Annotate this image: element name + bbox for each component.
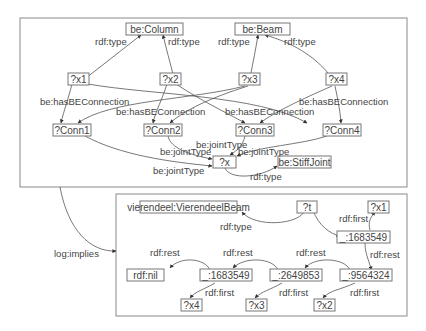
rdf-rule-diagram: be:Column be:Beam ?x1 ?x2 ?x3 ?x4 ?Conn1… [0,0,426,331]
edge-log-implies [60,187,116,251]
node-blank-9564324: _:9564324 [340,269,392,281]
node-conclusion-x2: ?x2 [314,299,335,311]
node-label: _:1683549 [201,270,250,281]
node-label: _:9564324 [341,270,390,281]
edge-label-x4-type: rdf:type [284,36,316,47]
edge-label-b1-rest: rdf:rest [370,249,400,260]
node-label: ?x3 [248,300,265,311]
node-conclusion-x3: ?x3 [246,299,267,311]
edge-label-b1-first: rdf:first [339,213,368,224]
node-label: ?Conn4 [324,125,359,136]
edge-label-joint-type-2: be:jointType [160,146,211,157]
node-label: ?x1 [370,202,387,213]
node-be-column: be:Column [126,23,183,35]
edge-label-has-conn-2: be:hasBEConnection [116,106,205,117]
edge-label-has-conn-3: be:hasBEConnection [225,106,314,117]
node-label: _:2649853 [271,270,320,281]
node-label: ?x4 [328,74,345,85]
node-label: rdf:nil [133,270,157,281]
node-conclusion-x1: ?x1 [368,201,389,213]
node-conn4: ?Conn4 [323,124,361,136]
node-label: ?x1 [70,74,87,85]
node-x4: ?x4 [326,73,347,85]
node-label: ?x4 [183,300,200,311]
edge-label-b3-first: rdf:first [279,287,308,298]
edge-label-log-implies: log:implies [54,248,99,259]
node-label: ?x2 [162,74,179,85]
node-vierendeel-beam: vierendeel:VierendeelBeam [127,201,250,213]
node-x2: ?x2 [160,73,181,85]
node-label: ?x2 [316,300,333,311]
node-label: ?x [219,157,230,168]
node-x1: ?x1 [68,73,89,85]
edge-label-x-type: rdf:type [250,171,282,182]
node-label: vierendeel:VierendeelBeam [127,202,250,213]
edge-label-joint-type-4: be:jointType [238,146,289,157]
node-rdf-nil: rdf:nil [127,269,164,281]
edge-label-b2-first: rdf:first [205,287,234,298]
edge-label-b3-rest: rdf:rest [223,247,253,258]
node-be-beam: be:Beam [235,23,290,35]
node-blank-2649853: _:2649853 [270,269,322,281]
node-x: ?x [213,156,236,168]
node-blank-1683549-top: _:1683549 [337,231,390,243]
edge-label-x3-type: rdf:type [218,36,250,47]
node-label: be:StiffJoint [278,157,330,168]
node-label: be:Beam [242,24,282,35]
node-label: _:1683549 [339,232,388,243]
node-label: ?t [303,202,312,213]
node-label: ?Conn1 [54,125,89,136]
node-blank-1683549: _:1683549 [200,269,252,281]
node-label: ?x3 [241,74,258,85]
edge-label-b4-rest: rdf:rest [296,247,326,258]
edge-label-x2-type: rdf:type [168,36,200,47]
edge-label-x1-type: rdf:type [95,36,127,47]
edge-label-b2-rest: rdf:rest [150,247,180,258]
node-label: ?Conn2 [145,125,180,136]
node-label: ?Conn3 [237,125,272,136]
edge-label-t-type: rdf:type [220,221,252,232]
node-conn2: ?Conn2 [144,124,182,136]
node-conn3: ?Conn3 [236,124,274,136]
node-conn1: ?Conn1 [53,124,91,136]
node-be-stiffjoint: be:StiffJoint [278,156,331,168]
node-label: be:Column [130,24,178,35]
node-t: ?t [297,201,317,213]
edge-label-b4-first: rdf:first [350,287,379,298]
node-conclusion-x4: ?x4 [181,299,202,311]
node-x3: ?x3 [239,73,260,85]
edge-label-joint-type-1: be:jointType [153,165,204,176]
edge-label-has-conn-4: be:hasBEConnection [299,96,388,107]
